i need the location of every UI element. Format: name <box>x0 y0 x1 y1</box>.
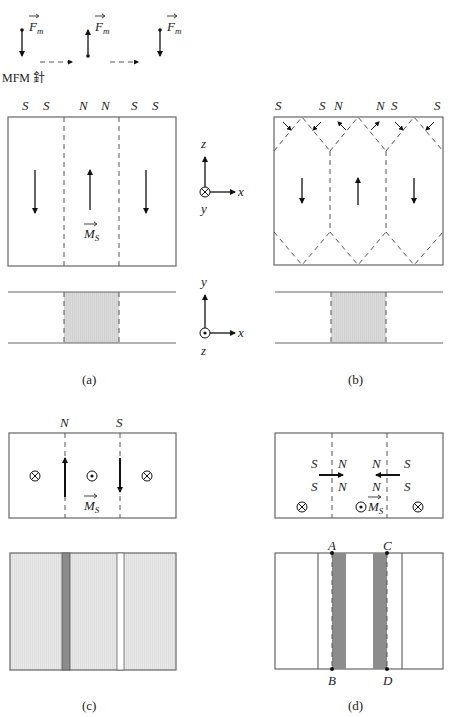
caption-b: (b) <box>348 372 363 387</box>
svg-text:N: N <box>371 479 382 494</box>
svg-text:N: N <box>337 479 348 494</box>
panel-d: S N N S S N N S MS A C <box>275 433 443 713</box>
domain-wall-region <box>331 292 386 343</box>
svg-text:N: N <box>371 456 382 471</box>
magnetization-label: MS <box>367 499 384 516</box>
svg-text:S: S <box>391 98 398 113</box>
out-of-page-icon <box>356 502 366 512</box>
svg-text:S: S <box>275 98 282 113</box>
svg-text:y: y <box>199 274 207 289</box>
svg-text:S: S <box>22 98 29 113</box>
svg-text:N: N <box>375 98 386 113</box>
into-page-icon <box>30 471 40 481</box>
caption-a: (a) <box>82 372 96 387</box>
svg-text:S: S <box>311 479 318 494</box>
mfm-domain-diagram: Fm Fm Fm MFM 針 S S N N S S <box>0 0 449 717</box>
svg-text:S: S <box>131 98 138 113</box>
point-label-d: D <box>382 673 393 688</box>
point-label-a: A <box>327 538 336 553</box>
pole-labels-b: S S N N S S <box>275 98 441 113</box>
svg-text:N: N <box>333 98 344 113</box>
out-of-page-icon <box>87 471 97 481</box>
svg-text:N: N <box>78 98 89 113</box>
dark-contrast-band <box>373 553 387 669</box>
domain-frame-a <box>8 117 176 266</box>
pole-label: N <box>59 415 70 430</box>
caption-c: (c) <box>82 698 96 713</box>
magnetization-label: MS <box>83 226 100 243</box>
force-label: Fm <box>94 19 110 36</box>
point-label-b: B <box>328 673 336 688</box>
point-a-marker <box>330 551 334 555</box>
force-label: Fm <box>166 19 182 36</box>
force-label: Fm <box>28 19 44 36</box>
svg-text:y: y <box>199 201 207 216</box>
svg-text:S: S <box>311 456 318 471</box>
into-page-icon <box>297 502 307 512</box>
svg-text:N: N <box>100 98 111 113</box>
point-c-marker <box>385 551 389 555</box>
svg-text:S: S <box>404 479 411 494</box>
mfm-image-d <box>275 553 443 669</box>
caption-d: (d) <box>348 698 363 713</box>
svg-text:S: S <box>152 98 159 113</box>
force-vector-1: Fm <box>20 14 44 56</box>
light-contrast-band <box>117 553 124 670</box>
svg-text:S: S <box>404 456 411 471</box>
axes-xz: z x y <box>199 136 244 216</box>
closure-arrows <box>283 122 434 130</box>
svg-text:N: N <box>337 456 348 471</box>
panel-b: S S N N S S <box>274 98 443 387</box>
svg-text:z: z <box>200 343 206 358</box>
svg-text:S: S <box>319 98 326 113</box>
point-label-c: C <box>383 538 392 553</box>
point-d-marker <box>385 667 389 671</box>
force-vector-2: Fm <box>86 14 110 58</box>
panel-c: N S MS (c) <box>9 415 176 713</box>
svg-text:x: x <box>237 325 244 340</box>
domain-wall-region <box>64 292 119 343</box>
point-b-marker <box>330 667 334 671</box>
pole-label: S <box>116 415 123 430</box>
into-page-icon <box>413 502 423 512</box>
svg-text:S: S <box>43 98 50 113</box>
magnetization-label: MS <box>83 498 100 515</box>
mfm-needle-label: MFM 針 <box>2 70 45 85</box>
panel-a: S S N N S S MS z x y <box>8 98 244 387</box>
mfm-image-c <box>10 553 176 670</box>
force-vector-3: Fm <box>158 14 182 56</box>
probe-row: Fm Fm Fm MFM 針 <box>2 14 182 85</box>
svg-text:S: S <box>434 98 441 113</box>
svg-text:x: x <box>237 184 244 199</box>
axes-xy: y x z <box>199 274 244 358</box>
dark-contrast-band <box>332 553 346 669</box>
dark-contrast-band <box>62 553 70 670</box>
pole-labels-a: S S N N S S <box>22 98 159 113</box>
into-page-icon <box>142 471 152 481</box>
svg-text:z: z <box>200 136 206 151</box>
